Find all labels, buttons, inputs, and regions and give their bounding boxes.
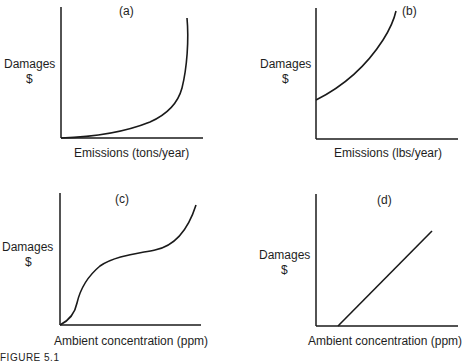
panel-d-line bbox=[338, 231, 432, 326]
panel-d-ylabel: Damages bbox=[259, 248, 310, 262]
panel-b-tag: (b) bbox=[402, 4, 417, 18]
panel-c-curve bbox=[60, 205, 196, 325]
panel-d-tag: (d) bbox=[377, 193, 392, 207]
panel-b-curve bbox=[316, 11, 396, 100]
panel-a-yunit: $ bbox=[26, 72, 33, 86]
figure-caption: FIGURE 5.1 bbox=[0, 352, 59, 363]
panel-a bbox=[61, 7, 203, 138]
panel-d-yunit: $ bbox=[281, 263, 288, 277]
panel-c-xlabel: Ambient concentration (ppm) bbox=[54, 334, 208, 348]
panel-b-ylabel: Damages bbox=[260, 57, 311, 71]
panel-a-tag: (a) bbox=[119, 4, 134, 18]
panel-d-xlabel: Ambient concentration (ppm) bbox=[308, 334, 462, 348]
panel-b bbox=[316, 8, 458, 139]
panel-b-xlabel: Emissions (lbs/year) bbox=[334, 146, 442, 160]
panel-a-xlabel: Emissions (tons/year) bbox=[74, 146, 189, 160]
panel-b-yunit: $ bbox=[282, 72, 289, 86]
panel-c-ylabel: Damages bbox=[2, 240, 53, 254]
panel-c-tag: (c) bbox=[115, 192, 129, 206]
panel-a-curve bbox=[61, 18, 188, 138]
panel-a-ylabel: Damages bbox=[4, 57, 55, 71]
panel-c bbox=[60, 193, 201, 325]
panel-d bbox=[316, 194, 458, 326]
panel-c-yunit: $ bbox=[25, 255, 32, 269]
